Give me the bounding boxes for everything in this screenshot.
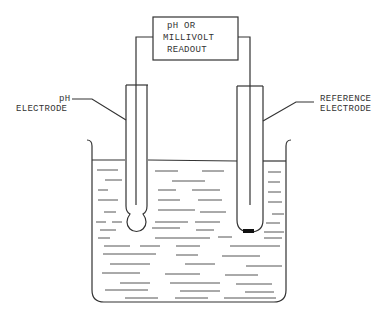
ph-electrode-wire <box>136 37 153 85</box>
reference-electrode-label-line-1: REFERENCE <box>320 94 371 104</box>
readout-box: pH OR MILLIVOLT READOUT <box>153 17 238 60</box>
solution <box>96 170 284 298</box>
reference-electrode-label-line-2: ELECTRODE <box>320 104 371 114</box>
ph-electrode-label-line-2: ELECTRODE <box>16 104 67 114</box>
ph-electrode-label: pH ELECTRODE <box>16 94 70 114</box>
reference-electrode <box>237 86 314 233</box>
ph-electrode <box>72 85 148 232</box>
ph-electrode-label-line-1: pH <box>59 94 70 104</box>
reference-electrode-label: REFERENCE ELECTRODE <box>320 94 371 114</box>
reference-electrode-wire <box>238 37 250 86</box>
readout-line-1: pH OR <box>167 21 196 31</box>
reference-tip <box>243 229 254 233</box>
diagram-canvas: pH OR MILLIVOLT READOUT <box>0 0 388 316</box>
readout-line-2: MILLIVOLT <box>163 33 215 43</box>
beaker <box>87 140 291 302</box>
readout-line-3: READOUT <box>167 45 207 55</box>
